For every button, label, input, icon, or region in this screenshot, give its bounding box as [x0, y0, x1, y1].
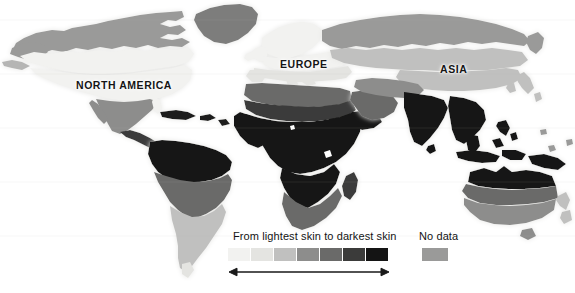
- region-south-america: [148, 140, 232, 278]
- legend-swatch-3: [274, 248, 296, 261]
- legend-swatch-4: [297, 248, 319, 261]
- map-label-asia: ASIA: [440, 63, 467, 75]
- region-southeast-asia: [448, 96, 486, 144]
- legend-nodata-caption: No data: [419, 230, 458, 242]
- world-map-figure: NORTH AMERICA EUROPE ASIA From lightest …: [0, 0, 575, 293]
- legend-swatch-2: [251, 248, 273, 261]
- region-kamchatka-nodata: [526, 32, 544, 54]
- legend-swatch-1: [228, 248, 250, 261]
- region-caribbean-islands: [160, 110, 230, 126]
- region-japan: [516, 72, 542, 102]
- region-new-zealand: [556, 192, 572, 224]
- region-iberia: [246, 70, 266, 82]
- legend-gradient-arrow-icon: [228, 266, 390, 278]
- region-northern-australia: [468, 166, 556, 189]
- region-central-asia: [330, 48, 528, 71]
- map-label-europe: EUROPE: [280, 58, 328, 70]
- region-pacific-islands: [540, 129, 573, 152]
- region-madagascar: [342, 172, 358, 200]
- legend-scale-swatches: [228, 248, 389, 261]
- region-greenland-nodata: [194, 4, 258, 44]
- region-florida: [152, 96, 162, 114]
- region-west-africa: [234, 112, 268, 148]
- region-philippines: [496, 120, 518, 141]
- region-siberia-nodata: [322, 14, 530, 49]
- legend-swatch-7: [366, 248, 388, 261]
- region-new-guinea: [528, 154, 566, 170]
- legend-swatch-6: [343, 248, 365, 261]
- map-label-north-america: NORTH AMERICA: [76, 79, 172, 91]
- region-india: [404, 92, 448, 146]
- legend-nodata-swatch: [422, 248, 448, 261]
- region-asia: [322, 14, 566, 170]
- map-legend: From lightest skin to darkest skin No da…: [228, 230, 528, 288]
- legend-scale-caption: From lightest skin to darkest skin: [233, 230, 397, 242]
- region-north-america: [2, 4, 258, 152]
- region-northern-europe: [262, 22, 322, 58]
- region-aleutians-nodata: [2, 60, 30, 70]
- legend-swatch-5: [320, 248, 342, 261]
- region-sri-lanka: [426, 144, 436, 154]
